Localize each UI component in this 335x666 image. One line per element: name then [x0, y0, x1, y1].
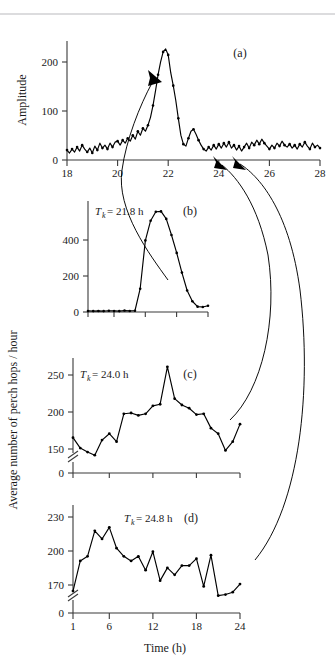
panel-b-label: (b)	[183, 204, 197, 218]
data-point	[202, 148, 205, 151]
data-point	[113, 310, 116, 313]
data-point	[175, 252, 178, 255]
data-point	[91, 152, 94, 155]
data-point	[170, 234, 173, 237]
data-point	[319, 147, 322, 150]
data-point	[278, 145, 281, 148]
data-point	[182, 143, 185, 146]
data-point	[144, 412, 147, 415]
panel-c-ytick-250: 250	[48, 369, 65, 381]
data-point	[101, 147, 104, 150]
data-point	[239, 423, 242, 426]
panel-b-tk-subscript: k	[102, 211, 106, 220]
data-point	[263, 142, 266, 145]
figure-root: 0 100 200 18 20 22 24 26 28 (a) A	[0, 0, 335, 666]
panel-a-y-ticks	[62, 62, 67, 160]
data-point	[86, 555, 89, 558]
panel-b-x-ticks	[88, 312, 208, 317]
panel-d-xtick-1: 1	[70, 620, 76, 632]
panel-d-tk-value: = 24.8 h	[136, 512, 173, 524]
data-point	[122, 555, 125, 558]
data-point	[197, 139, 200, 142]
data-point	[207, 146, 210, 149]
data-point	[160, 210, 163, 213]
data-point	[166, 566, 169, 569]
data-point	[122, 412, 125, 415]
data-point	[181, 271, 184, 274]
data-point	[273, 147, 276, 150]
panel-a-ytick-200: 200	[42, 56, 59, 68]
data-point	[166, 365, 169, 368]
data-point	[66, 149, 69, 152]
data-point	[188, 407, 191, 410]
data-point	[71, 148, 74, 151]
data-point	[186, 289, 189, 292]
data-point	[239, 583, 242, 586]
data-point	[147, 124, 150, 127]
data-point	[79, 447, 82, 450]
panel-b-y-ticks	[83, 240, 88, 312]
data-point	[72, 436, 75, 439]
data-point	[314, 146, 317, 149]
panel-c-tk-value: = 24.0 h	[92, 368, 129, 380]
panel-b-tk-annotation: T k = 21.8 h	[95, 205, 144, 220]
data-point	[149, 219, 152, 222]
data-point	[224, 593, 227, 596]
data-point	[309, 148, 312, 151]
data-point	[304, 141, 307, 144]
panel-a-series-line	[67, 49, 320, 153]
data-point	[86, 151, 89, 154]
panel-a-xtick-26: 26	[264, 167, 276, 179]
data-point	[159, 579, 162, 582]
data-point	[228, 141, 231, 144]
panel-d-ytick-230: 230	[48, 511, 65, 523]
data-point	[173, 573, 176, 576]
data-point	[288, 143, 291, 146]
data-point	[142, 127, 145, 130]
data-point	[97, 310, 100, 313]
data-point	[72, 590, 75, 593]
data-point	[207, 304, 210, 307]
data-point	[195, 557, 198, 560]
panel-b-ytick-0: 0	[74, 306, 80, 318]
data-point	[218, 143, 221, 146]
data-point	[243, 146, 246, 149]
panel-a-yaxis-title: Amplitude	[15, 74, 29, 125]
panel-d-series-line	[73, 527, 240, 595]
panel-c-tk-symbol: T	[80, 368, 87, 380]
data-point	[93, 529, 96, 532]
data-point	[144, 239, 147, 242]
scientific-figure: 0 100 200 18 20 22 24 26 28 (a) A	[0, 0, 335, 666]
data-point	[238, 145, 241, 148]
data-point	[191, 300, 194, 303]
panel-c-series-line	[73, 367, 240, 455]
data-point	[217, 432, 220, 435]
data-point	[201, 306, 204, 309]
data-point	[108, 526, 111, 529]
data-point	[101, 538, 104, 541]
panel-c-ytick-200: 200	[48, 406, 65, 418]
panel-b-ytick-200: 200	[63, 270, 80, 282]
data-point	[81, 144, 84, 147]
data-point	[139, 287, 142, 290]
data-point	[137, 130, 140, 133]
panel-c-x-ticks	[73, 473, 240, 478]
data-point	[298, 143, 301, 146]
data-point	[162, 51, 165, 54]
data-point	[101, 439, 104, 442]
data-point	[137, 414, 140, 417]
data-point	[202, 412, 205, 415]
panel-d-tk-symbol: T	[124, 512, 131, 524]
panel-c: 0 150 200 250 T k = 24.0 h (c)	[48, 358, 242, 479]
data-point	[195, 413, 198, 416]
data-point	[210, 427, 213, 430]
panel-a-xtick-18: 18	[62, 167, 74, 179]
panel-a-ytick-0: 0	[53, 154, 59, 166]
data-point	[172, 84, 175, 87]
panel-c-y-ticks	[68, 375, 73, 473]
panel-a-label: (a)	[233, 46, 246, 60]
data-point	[283, 144, 286, 147]
data-point	[202, 585, 205, 588]
panel-c-label: (c)	[183, 367, 196, 381]
data-point	[258, 143, 261, 146]
